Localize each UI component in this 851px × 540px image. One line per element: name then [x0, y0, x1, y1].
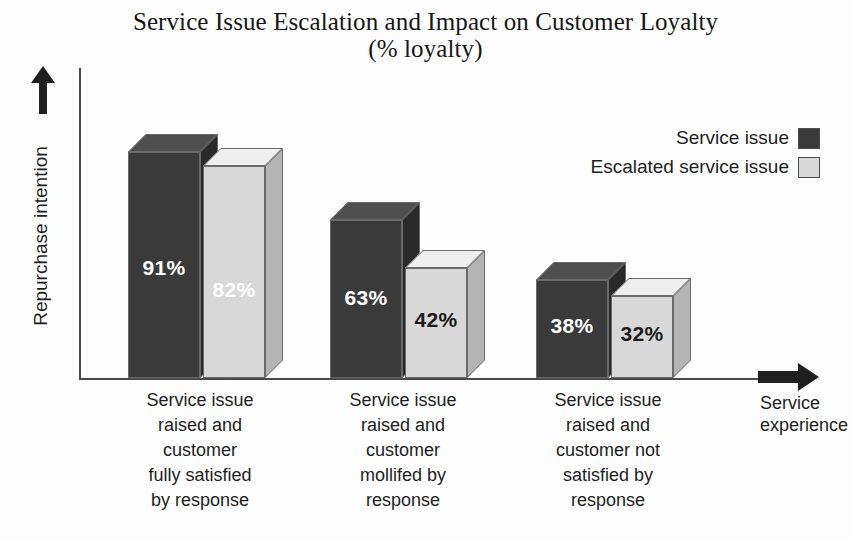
category-label-line: raised and [311, 413, 495, 438]
bar-group3-escalated-service-issue[interactable]: 32% [611, 278, 673, 378]
bar-value-label: 38% [536, 314, 608, 338]
bar-group1-escalated-service-issue[interactable]: 82% [203, 148, 265, 378]
bar-side-face [265, 148, 283, 378]
bar-value-label: 32% [611, 322, 673, 346]
category-label-line: customer [311, 438, 495, 463]
x-axis-line [79, 378, 759, 380]
x-axis-arrow-icon [758, 362, 820, 392]
bar-group2-escalated-service-issue[interactable]: 42% [405, 250, 467, 378]
x-axis-category-label-2: Service issue raised and customer mollif… [311, 388, 495, 513]
category-label-line: response [516, 488, 700, 513]
legend-label-escalated-service-issue: Escalated service issue [590, 156, 789, 178]
bar-group3-service-issue[interactable]: 38% [536, 262, 608, 378]
bar-value-label: 91% [128, 256, 200, 280]
legend: Service issue Escalated service issue [430, 126, 820, 184]
bar-value-label: 42% [405, 308, 467, 332]
y-axis-line [79, 68, 81, 380]
x-axis-category-label-1: Service issue raised and customer fully … [108, 388, 292, 513]
x-axis-title-line1: Service [760, 392, 851, 414]
category-label-line: by response [108, 488, 292, 513]
category-label-line: Service issue [311, 388, 495, 413]
chart-canvas: Service Issue Escalation and Impact on C… [0, 0, 851, 540]
bar-front-face [203, 166, 265, 378]
category-label-line: customer not [516, 438, 700, 463]
category-label-line: satisfied by [516, 463, 700, 488]
legend-label-service-issue: Service issue [676, 127, 789, 149]
x-axis-title: Service experience [760, 392, 851, 436]
y-axis-title: Repurchase intention [30, 91, 52, 381]
category-label-line: raised and [108, 413, 292, 438]
legend-swatch-service-issue [798, 128, 820, 149]
bar-group1-service-issue[interactable]: 91% [128, 134, 200, 378]
legend-item-escalated-service-issue[interactable]: Escalated service issue [430, 155, 820, 179]
legend-swatch-escalated-service-issue [798, 157, 820, 178]
legend-item-service-issue[interactable]: Service issue [430, 126, 820, 150]
bar-value-label: 82% [203, 278, 265, 302]
category-label-line: raised and [516, 413, 700, 438]
category-label-line: fully satisfied [108, 463, 292, 488]
category-label-line: response [311, 488, 495, 513]
chart-title-line1: Service Issue Escalation and Impact on C… [133, 8, 718, 35]
x-axis-category-label-3: Service issue raised and customer not sa… [516, 388, 700, 513]
x-axis-title-line2: experience [760, 414, 851, 436]
bar-side-face [673, 278, 691, 378]
category-label-line: Service issue [516, 388, 700, 413]
bar-side-face [467, 250, 485, 378]
bar-value-label: 63% [330, 286, 402, 310]
category-label-line: customer [108, 438, 292, 463]
category-label-line: Service issue [108, 388, 292, 413]
chart-subtitle: (% loyalty) [0, 35, 851, 62]
chart-title: Service Issue Escalation and Impact on C… [0, 8, 851, 62]
bar-group2-service-issue[interactable]: 63% [330, 202, 402, 378]
category-label-line: mollifed by [311, 463, 495, 488]
